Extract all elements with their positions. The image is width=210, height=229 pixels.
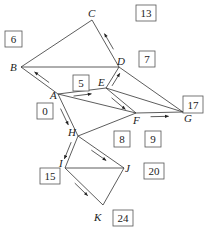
value-box-13: 13: [136, 5, 156, 21]
node-label-F: F: [132, 114, 140, 126]
node-label-K: K: [93, 211, 102, 223]
edge-C-D: [92, 20, 119, 67]
node-label-A: A: [49, 89, 57, 101]
value-box-0: 0: [37, 103, 53, 119]
arrow-D-to-C-icon: [104, 34, 113, 50]
value-box-24: 24: [113, 210, 133, 226]
arrow-A-to-E-icon: [74, 94, 92, 96]
edge-D-G: [119, 67, 183, 112]
svg-text:17: 17: [188, 99, 200, 111]
svg-text:0: 0: [42, 105, 48, 117]
node-label-J: J: [125, 162, 131, 174]
network-diagram: ABCDEFGHIJK 6137501789201524: [0, 0, 210, 229]
svg-text:13: 13: [141, 7, 153, 19]
node-label-B: B: [10, 61, 17, 73]
svg-text:20: 20: [149, 165, 161, 177]
node-label-D: D: [116, 55, 125, 67]
node-label-E: E: [97, 76, 105, 88]
value-box-8: 8: [114, 131, 130, 147]
edge-B-C: [21, 20, 92, 67]
svg-text:8: 8: [119, 133, 125, 145]
svg-text:6: 6: [11, 33, 17, 45]
value-box-9: 9: [145, 131, 161, 147]
edge-F-G: [136, 112, 183, 113]
node-label-C: C: [88, 7, 96, 19]
value-box-7: 7: [139, 51, 155, 67]
edge-I-K: [65, 168, 103, 205]
arrow-H-to-J-icon: [91, 150, 106, 160]
svg-text:9: 9: [150, 133, 156, 145]
node-label-I: I: [58, 157, 64, 169]
value-box-15: 15: [40, 168, 60, 184]
edge-J-K: [103, 168, 124, 205]
svg-text:7: 7: [144, 53, 150, 65]
boxes-layer: 6137501789201524: [5, 5, 203, 226]
svg-text:5: 5: [78, 77, 84, 89]
value-box-17: 17: [183, 96, 203, 113]
value-box-20: 20: [144, 163, 164, 179]
arrow-I-to-K-icon: [75, 183, 88, 196]
arrow-A-to-B-icon: [35, 72, 50, 83]
svg-text:24: 24: [118, 212, 130, 224]
value-box-5: 5: [73, 75, 89, 91]
svg-text:15: 15: [45, 170, 57, 182]
arrow-E-to-D-icon: [112, 73, 120, 86]
arrow-A-to-H-icon: [61, 109, 69, 125]
node-label-H: H: [67, 126, 77, 138]
value-box-6: 6: [5, 31, 22, 47]
node-label-G: G: [184, 112, 192, 124]
